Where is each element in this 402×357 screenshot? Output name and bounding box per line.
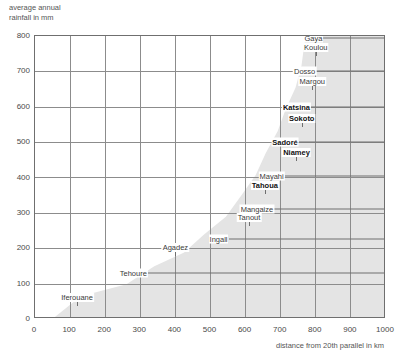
leader-line <box>265 190 266 194</box>
x-axis-tick-label: 200 <box>84 325 124 334</box>
leader-line <box>175 252 176 256</box>
x-axis-tick-label: 700 <box>260 325 300 334</box>
gridline-h <box>35 248 384 249</box>
city-label: Agadez <box>162 243 189 252</box>
leader-line <box>312 86 313 90</box>
city-label: Mangaize <box>240 205 275 214</box>
leader-line <box>285 175 385 176</box>
leader-line <box>299 142 385 143</box>
leader-line <box>316 52 317 56</box>
y-axis-tick-label: 0 <box>0 314 30 323</box>
city-label: Ingall <box>209 235 229 244</box>
y-axis-tick-label: 200 <box>0 243 30 252</box>
leader-line <box>274 209 385 210</box>
x-axis-tick-label: 0 <box>14 325 54 334</box>
leader-line <box>323 37 385 38</box>
city-label: Niamey <box>282 148 311 157</box>
city-label: Katsina <box>282 102 311 111</box>
y-axis-title: average annual rainfall in mm <box>9 3 61 22</box>
y-axis-tick-label: 100 <box>0 278 30 287</box>
leader-line <box>316 71 385 72</box>
gridline-h <box>35 177 384 178</box>
x-axis: 01002003004005006007008009001000 <box>34 325 385 339</box>
city-label: Koulou <box>303 43 328 52</box>
gridline-h <box>35 213 384 214</box>
x-axis-tick-label: 1000 <box>365 325 402 334</box>
x-axis-tick-label: 400 <box>154 325 194 334</box>
x-axis-tick-label: 800 <box>295 325 335 334</box>
city-label: Tehoure <box>119 269 148 278</box>
x-axis-tick-label: 900 <box>330 325 370 334</box>
city-label: Mayahi <box>259 171 285 180</box>
city-label: Tahoua <box>251 181 279 190</box>
y-axis-tick-label: 600 <box>0 101 30 110</box>
y-axis-tick-label: 300 <box>0 207 30 216</box>
x-axis-tick-label: 100 <box>49 325 89 334</box>
x-axis-tick-label: 500 <box>190 325 230 334</box>
city-label: Iferouane <box>60 293 94 302</box>
leader-line <box>296 157 297 161</box>
y-axis-tick-label: 400 <box>0 172 30 181</box>
city-label: Dosso <box>293 67 316 76</box>
y-axis-tick-label: 700 <box>0 66 30 75</box>
x-axis-tick-label: 300 <box>119 325 159 334</box>
city-label: Margou <box>299 77 326 86</box>
leader-line <box>249 222 250 226</box>
leader-line <box>229 239 385 240</box>
city-label: Sokoto <box>288 114 315 123</box>
x-axis-tick-label: 600 <box>225 325 265 334</box>
city-label: Sadoré <box>271 138 298 147</box>
leader-line <box>148 273 385 274</box>
y-axis: 0100200300400500600700800 <box>0 35 30 318</box>
gridline-h <box>35 284 384 285</box>
city-label: Gaya <box>303 35 323 42</box>
leader-line <box>77 302 78 306</box>
plot-area: IferouaneTehoureAgadezIngallTanoutMangai… <box>34 35 385 318</box>
chart-container: average annual rainfall in mm IferouaneT… <box>0 0 402 357</box>
leader-line <box>302 123 303 127</box>
leader-line <box>311 106 385 107</box>
y-axis-tick-label: 800 <box>0 31 30 40</box>
y-axis-tick-label: 500 <box>0 137 30 146</box>
city-label: Tanout <box>237 213 262 222</box>
x-axis-title: distance from 20th parallel in km <box>276 341 384 350</box>
